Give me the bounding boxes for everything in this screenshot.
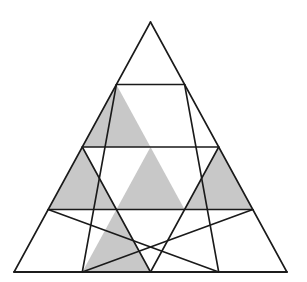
grid-lines (14, 22, 287, 272)
shaded-triangle (116, 147, 184, 210)
shaded-cells (48, 85, 253, 273)
shaded-triangle (48, 147, 116, 210)
shaded-triangle (185, 147, 253, 210)
triangle-grid-diagram (0, 0, 307, 282)
shaded-triangle (82, 85, 150, 148)
